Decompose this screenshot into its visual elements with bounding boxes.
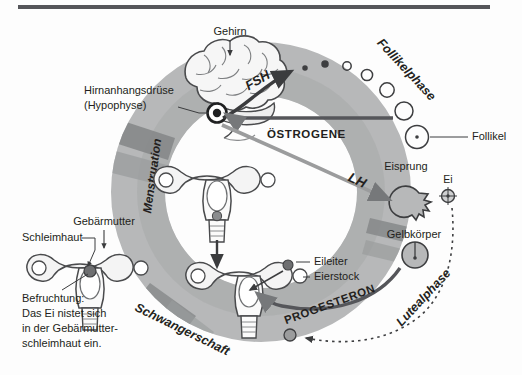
schleimhaut-leader bbox=[82, 238, 95, 266]
shed-egg-top bbox=[212, 211, 221, 220]
brain-illustration bbox=[185, 36, 287, 141]
follicle-5 bbox=[380, 83, 394, 97]
corpus-luteum bbox=[402, 242, 428, 268]
diagram-canvas: Follikelphase Lutealphase Menstruation S… bbox=[0, 0, 522, 375]
label-follikelphase: Follikelphase bbox=[374, 36, 438, 104]
degenerating-egg bbox=[284, 329, 296, 341]
label-follikel: Follikel bbox=[472, 130, 506, 142]
label-schleimhaut: Schleimhaut bbox=[22, 231, 83, 243]
label-ei: Ei bbox=[443, 173, 452, 185]
label-befruchtung-line2: Das Ei nistet sich bbox=[22, 307, 106, 319]
follicle-2 bbox=[322, 61, 328, 67]
label-befruchtung-line1: Befruchtung: bbox=[22, 292, 84, 304]
label-befruchtung-line4: schleimhaut ein. bbox=[22, 337, 102, 349]
follicle-3 bbox=[343, 62, 351, 70]
label-oestrogene: ÖSTROGENE bbox=[267, 128, 346, 140]
menstrual-cycle-diagram: Follikelphase Lutealphase Menstruation S… bbox=[0, 0, 522, 375]
label-eierstock: Eierstock bbox=[314, 270, 360, 282]
pituitary-gland bbox=[208, 104, 227, 123]
label-eileiter: Eileiter bbox=[314, 255, 348, 267]
label-lutealphase: Lutealphase bbox=[393, 266, 453, 329]
ovulation-burst bbox=[389, 186, 431, 220]
follicle-4 bbox=[361, 69, 372, 80]
label-gebaermutter: Gebärmutter bbox=[73, 215, 135, 227]
label-eisprung: Eisprung bbox=[384, 160, 427, 172]
follicle-6 bbox=[395, 102, 413, 120]
label-gelbkoerper: Gelbkörper bbox=[387, 228, 442, 240]
released-egg bbox=[439, 187, 457, 205]
follicle-1 bbox=[303, 66, 307, 70]
top-rule bbox=[18, 5, 490, 9]
label-hypophyse-line1: Hirnanhangsdrüse bbox=[84, 84, 174, 96]
ovary-right bbox=[293, 269, 307, 283]
label-gehirn: Gehirn bbox=[213, 25, 246, 37]
label-hypophyse-line2: (Hypophyse) bbox=[84, 99, 146, 111]
label-befruchtung-line3: in der Gebärmutter- bbox=[22, 322, 118, 334]
egg-in-tube bbox=[283, 260, 293, 270]
